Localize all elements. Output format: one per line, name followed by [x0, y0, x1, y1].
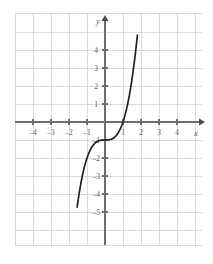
y-tick-label-1: 1 — [94, 100, 98, 109]
x-tick-label-4: 4 — [175, 128, 179, 137]
x-axis-label: x — [193, 129, 198, 138]
y-tick-label--5: –5 — [92, 208, 101, 217]
x-tick-label--2: –2 — [64, 128, 73, 137]
y-tick-label-2: 2 — [94, 82, 98, 91]
y-axis-label: y — [95, 17, 100, 26]
x-tick-label--4: –4 — [28, 128, 37, 137]
y-tick-label--2: –2 — [92, 154, 101, 163]
x-tick-label--1: –1 — [82, 128, 91, 137]
x-tick-label-3: 3 — [157, 128, 161, 137]
graph-figure: –4 –3 –2 –1 1 2 3 4 4 3 2 1 –1 –2 –3 –4 … — [0, 0, 213, 264]
y-tick-label--3: –3 — [92, 172, 101, 181]
x-tick-label-1: 1 — [121, 128, 125, 137]
x-tick-label-2: 2 — [139, 128, 143, 137]
y-tick-label-4: 4 — [94, 46, 98, 55]
y-tick-label-3: 3 — [94, 64, 98, 73]
x-tick-label--3: –3 — [46, 128, 55, 137]
y-tick-label--4: –4 — [92, 190, 101, 199]
coordinate-plane-chart: –4 –3 –2 –1 1 2 3 4 4 3 2 1 –1 –2 –3 –4 … — [0, 0, 213, 264]
